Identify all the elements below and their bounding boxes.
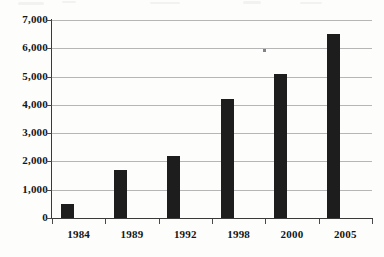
y-axis-tick — [46, 77, 52, 78]
y-axis-tick-label: 7,000 — [2, 13, 48, 25]
y-axis-tick-label: 6,000 — [2, 41, 48, 53]
x-axis-tick — [159, 219, 160, 224]
x-axis-tick-label: 2005 — [318, 228, 372, 240]
scan-artifact — [62, 1, 76, 3]
y-axis-tick — [46, 48, 52, 49]
y-axis-tick — [46, 133, 52, 134]
x-axis-tick-label: 1989 — [105, 228, 159, 240]
scan-artifact — [150, 2, 180, 4]
bar — [167, 156, 180, 218]
bar — [274, 74, 287, 218]
bar — [61, 204, 74, 218]
y-axis-tick-label: 3,000 — [2, 126, 48, 138]
x-axis-tick-label: 1998 — [212, 228, 266, 240]
y-axis-tick-label: 1,000 — [2, 183, 48, 195]
scan-artifact — [300, 2, 322, 4]
bar — [327, 34, 340, 218]
y-axis-tick-label: 4,000 — [2, 98, 48, 110]
scan-artifact — [243, 1, 261, 4]
y-axis-tick — [46, 190, 52, 191]
x-axis-tick — [212, 219, 213, 224]
y-axis-tick — [46, 161, 52, 162]
scan-artifact — [18, 2, 44, 5]
x-axis-tick-label: 1984 — [52, 228, 106, 240]
bar-chart-figure: 01,0002,0003,0004,0005,0006,0007,000 198… — [0, 0, 384, 257]
y-axis-tick-label: 5,000 — [2, 70, 48, 82]
y-axis-tick — [46, 20, 52, 21]
x-axis-tick-label: 1992 — [158, 228, 212, 240]
x-axis-tick-label: 2000 — [265, 228, 319, 240]
y-axis-tick-label: 2,000 — [2, 154, 48, 166]
x-axis-tick — [265, 219, 266, 224]
x-axis-tick — [52, 219, 53, 224]
x-axis-tick — [372, 219, 373, 224]
x-axis-tick — [319, 219, 320, 224]
bar — [221, 99, 234, 218]
bar — [114, 170, 127, 218]
y-axis-tick-label: 0 — [2, 211, 48, 223]
x-axis-tick — [105, 219, 106, 224]
bars-group — [52, 20, 372, 218]
y-axis-tick — [46, 105, 52, 106]
